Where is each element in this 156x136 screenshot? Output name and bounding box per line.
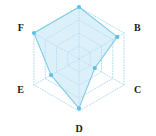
data-point-marker	[93, 66, 97, 70]
axis-label-d: D	[75, 123, 82, 134]
radar-chart-svg: B C D E F	[0, 0, 156, 136]
data-point-marker	[32, 31, 36, 35]
data-point-marker	[49, 73, 53, 77]
data-point-marker	[115, 35, 119, 39]
axis-label-f: F	[18, 22, 24, 33]
data-point-marker	[77, 5, 81, 9]
radar-chart-container: B C D E F	[0, 0, 156, 136]
data-point-marker	[77, 106, 81, 110]
axis-label-e: E	[17, 84, 24, 95]
axis-label-b: B	[134, 22, 141, 33]
axis-label-c: C	[134, 84, 141, 95]
